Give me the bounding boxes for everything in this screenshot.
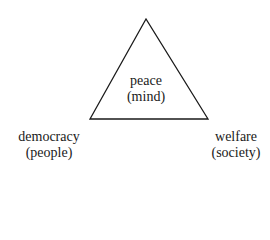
mind-text: (mind): [115, 89, 177, 105]
welfare-label: welfare (society): [204, 129, 268, 161]
people-text: (people): [10, 145, 88, 161]
peace-text: peace: [115, 73, 177, 89]
democracy-text: democracy: [10, 129, 88, 145]
society-text: (society): [204, 145, 268, 161]
peace-label: peace (mind): [115, 73, 177, 105]
welfare-text: welfare: [204, 129, 268, 145]
democracy-label: democracy (people): [10, 129, 88, 161]
